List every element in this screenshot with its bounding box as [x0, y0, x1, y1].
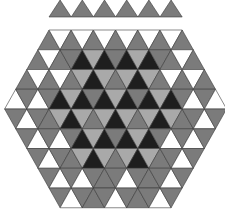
strip-triangle-up [93, 0, 115, 17]
strip-triangle-up [71, 0, 93, 17]
puzzle-canvas: Triangular tiling hexagon puzzle [0, 0, 225, 214]
strip-triangle-up [49, 0, 71, 17]
strip-triangle-up [116, 0, 138, 17]
hexagon-tiling [5, 30, 225, 208]
strip-triangle-up [138, 0, 160, 17]
top-triangle-strip [49, 0, 182, 17]
strip-triangle-up [160, 0, 182, 17]
